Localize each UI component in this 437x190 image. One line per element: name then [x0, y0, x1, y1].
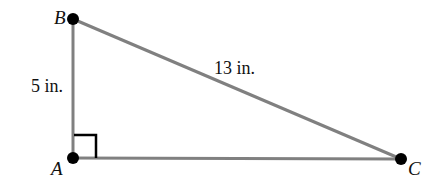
side-label-ab: 5 in.: [31, 76, 63, 96]
vertex-label-b: B: [54, 7, 66, 28]
side-bc: [73, 19, 401, 159]
vertex-label-c: C: [408, 158, 421, 179]
vertex-point-a: [67, 152, 79, 164]
vertex-point-c: [395, 153, 407, 165]
side-ac: [73, 158, 401, 159]
vertex-label-a: A: [49, 158, 63, 179]
vertex-point-b: [67, 13, 79, 25]
side-label-bc: 13 in.: [214, 58, 255, 78]
triangle-diagram: B A C 5 in. 13 in.: [0, 0, 437, 190]
